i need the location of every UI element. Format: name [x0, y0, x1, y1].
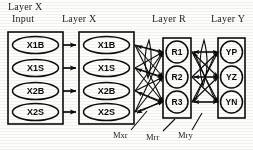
node-label: X2B: [27, 86, 45, 96]
node-xi-x2b[interactable]: X2B: [13, 83, 59, 100]
node-label: X2S: [98, 107, 115, 117]
node-label: X1S: [27, 63, 44, 73]
node-y-yz[interactable]: YZ: [221, 66, 243, 88]
node-r-r2[interactable]: R2: [166, 66, 188, 88]
node-label: X2B: [98, 86, 116, 96]
node-y-yn[interactable]: YN: [221, 91, 243, 113]
node-x-x2b[interactable]: X2B: [84, 83, 130, 100]
node-y-yp[interactable]: YP: [221, 41, 243, 63]
layer-x-input-title-line1: Layer X: [8, 2, 42, 13]
node-x-x1s[interactable]: X1S: [84, 60, 130, 77]
node-r-r3[interactable]: R3: [166, 91, 188, 113]
layer-x-group: X1B X1S X2B X2S: [79, 32, 134, 124]
weight-label-mxr: Mxr: [113, 130, 128, 140]
node-xi-x1b[interactable]: X1B: [13, 37, 59, 54]
node-xi-x2s[interactable]: X2S: [13, 104, 59, 121]
layer-y-group: YP YZ YN: [218, 38, 245, 118]
node-x-x1b[interactable]: X1B: [84, 37, 130, 54]
node-label: R2: [172, 72, 183, 82]
node-label: YZ: [226, 72, 237, 82]
connections-input-to-x: [63, 45, 76, 112]
layer-x-title: Layer X: [62, 14, 96, 25]
node-x-x2s[interactable]: X2S: [84, 104, 130, 121]
layer-r-title: Layer R: [152, 14, 186, 25]
node-label: YN: [226, 97, 238, 107]
node-r-r1[interactable]: R1: [166, 41, 188, 63]
layer-y-title: Layer Y: [211, 14, 245, 25]
node-label: R3: [172, 97, 183, 107]
node-label: X2S: [27, 107, 44, 117]
weight-label-mry: Mry: [178, 130, 193, 140]
node-label: YP: [226, 47, 238, 57]
node-label: X1S: [98, 63, 115, 73]
node-xi-x1s[interactable]: X1S: [13, 60, 59, 77]
weight-label-mrr: Mrr: [146, 132, 159, 142]
node-label: X1B: [98, 40, 116, 50]
node-label: R1: [172, 47, 183, 57]
layer-r-group: R1 R2 R3: [163, 38, 191, 118]
layer-x-input-group: X1B X1S X2B X2S: [8, 32, 63, 124]
layer-x-input-title-line2: Input: [12, 14, 34, 25]
node-label: X1B: [27, 40, 45, 50]
